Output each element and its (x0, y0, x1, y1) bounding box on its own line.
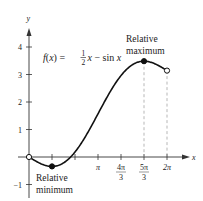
svg-text:Relative: Relative (126, 34, 158, 44)
y-tick-label: −1 (13, 181, 22, 190)
function-curve (29, 61, 167, 166)
y-axis-label: y (26, 14, 31, 23)
y-tick-label: 1 (18, 126, 22, 135)
svg-text:minimum: minimum (36, 185, 74, 195)
x-tick-label: 2π (163, 163, 172, 172)
x-tick-label: 3 (119, 173, 123, 182)
svg-text:f(x) =: f(x) = (43, 52, 65, 64)
open-endpoint (164, 68, 169, 73)
function-label: f(x) = 1 2 x − sin x (43, 49, 122, 68)
x-tick-label: 4π (117, 163, 125, 172)
critical-point (49, 164, 54, 169)
y-tick-label: 4 (18, 43, 22, 52)
x-axis-arrow-icon (182, 155, 190, 160)
y-tick-label: 2 (18, 98, 22, 107)
open-endpoint (26, 154, 31, 159)
svg-text:x − sin x: x − sin x (87, 52, 122, 63)
x-axis-label: x (191, 153, 196, 162)
x-tick-label: 3 (142, 173, 146, 182)
relative-minimum-annotation: Relative minimum (36, 173, 74, 195)
svg-text:maximum: maximum (126, 46, 165, 56)
x-tick-label: π (96, 163, 101, 172)
svg-text:2: 2 (82, 58, 86, 67)
dashed-guides (144, 61, 167, 157)
chart: x y π4π35π32π −11234 f(x) = 1 2 x − sin … (0, 0, 203, 201)
y-tick-label: 3 (18, 71, 22, 80)
x-tick-label: 5π (140, 163, 148, 172)
svg-text:1: 1 (82, 49, 86, 58)
relative-maximum-annotation: Relative maximum (126, 34, 165, 56)
y-axis-arrow-icon (27, 28, 32, 36)
critical-point (141, 59, 146, 64)
svg-text:Relative: Relative (36, 173, 68, 183)
